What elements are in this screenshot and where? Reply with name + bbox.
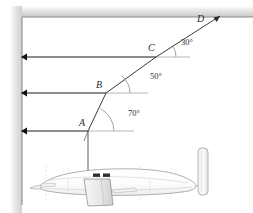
label-angle-b: 50° — [150, 72, 162, 81]
bow-plane — [41, 183, 56, 187]
figure-canvas: A B C D 70° 50° 30° — [0, 0, 253, 213]
label-point-c: C — [148, 43, 155, 53]
label-angle-c: 30° — [181, 38, 193, 47]
label-point-b: B — [96, 80, 102, 90]
label-point-a: A — [79, 118, 85, 128]
conning-tower — [84, 179, 113, 206]
hull-hatch-1 — [93, 174, 100, 177]
rudder-fin — [198, 148, 208, 195]
label-angle-a: 70° — [128, 109, 140, 118]
diagram-svg — [0, 0, 253, 213]
scan-left-band — [10, 6, 22, 213]
hull-hatch-2 — [103, 174, 110, 177]
scan-top-band — [16, 6, 253, 17]
label-point-d: D — [197, 14, 204, 24]
